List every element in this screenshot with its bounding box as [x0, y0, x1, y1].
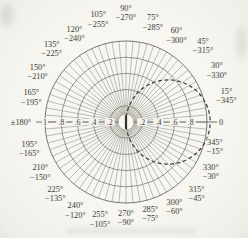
- angle-label-150: 150°−210°: [27, 63, 47, 81]
- polar-chart-canvas: 1.8.6.4.2.2.4.6.8±180°015°−345°30°−330°4…: [0, 0, 248, 238]
- angle-label-345: 345°−15°: [207, 138, 223, 156]
- radius-tick-right-.8: .8: [188, 118, 194, 127]
- radius-tick-left-.2: .2: [107, 118, 113, 127]
- angle-label-225: 225°−135°: [45, 185, 65, 203]
- spoke-230: [74, 124, 125, 185]
- spoke-220: [64, 123, 125, 174]
- spoke-130: [74, 60, 125, 121]
- angle-label-75: 75°−285°: [143, 13, 163, 31]
- polar-chart-figure: 1.8.6.4.2.2.4.6.8±180°015°−345°30°−330°4…: [0, 0, 248, 238]
- angle-label-240: 240°−120°: [65, 201, 85, 219]
- angle-label-255: 255°−105°: [90, 210, 110, 228]
- spoke-100: [112, 42, 126, 120]
- angle-label-105: 105°−255°: [88, 10, 108, 28]
- spoke-320: [128, 123, 189, 174]
- spoke-225: [69, 123, 125, 179]
- spoke-110: [98, 46, 125, 120]
- angle-label-15: 15°−345°: [216, 87, 236, 105]
- radius-tick-left-.4: .4: [91, 118, 97, 127]
- angle-label-330: 330°−30°: [203, 163, 219, 181]
- spoke-140: [64, 70, 125, 121]
- spoke-290: [127, 124, 154, 198]
- spoke-250: [98, 124, 125, 198]
- spoke-135: [69, 65, 125, 121]
- axis-label-0: 0: [219, 118, 223, 127]
- radius-tick-left-.8: .8: [58, 118, 64, 127]
- angle-label-285: 285°−75°: [142, 205, 158, 223]
- angle-label-300: 300°−60°: [166, 198, 182, 216]
- radius-tick-left-.6: .6: [74, 118, 80, 127]
- angle-label-30: 30°−330°: [207, 61, 227, 79]
- angle-label-120: 120°−240°: [64, 25, 84, 43]
- angle-label-315: 315°−45°: [189, 185, 205, 203]
- spoke-260: [112, 124, 126, 202]
- spoke-40: [128, 70, 189, 121]
- angle-label-90: 90°−270°: [116, 4, 136, 22]
- spoke-70: [127, 46, 154, 120]
- axis-label-180: ±180°: [11, 118, 31, 127]
- angle-label-60: 60°−300°: [166, 26, 186, 44]
- radius-tick-right-.2: .2: [139, 118, 145, 127]
- spoke-310: [127, 124, 178, 185]
- radius-tick-right-.6: .6: [172, 118, 178, 127]
- angle-label-45: 45°−315°: [193, 37, 213, 55]
- radius-tick-left-1: 1: [43, 118, 47, 127]
- angle-label-195: 195°−165°: [19, 140, 39, 158]
- spoke-45: [127, 65, 183, 121]
- center-marker: [125, 115, 127, 129]
- spoke-50: [127, 60, 178, 121]
- radius-tick-right-.4: .4: [155, 118, 161, 127]
- spoke-315: [127, 123, 183, 179]
- angle-label-210: 210°−150°: [30, 163, 50, 181]
- angle-label-135: 135°−225°: [42, 40, 62, 58]
- angle-label-270: 270°−90°: [118, 209, 134, 227]
- angle-label-165: 165°−195°: [21, 88, 41, 106]
